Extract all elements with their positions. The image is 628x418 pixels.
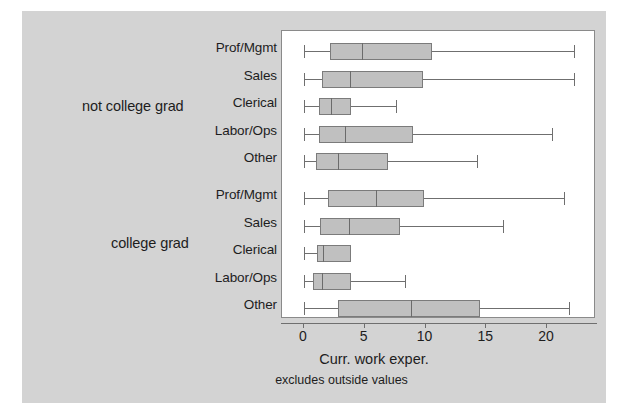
- whisker-low-cap: [304, 155, 305, 168]
- group-label-not-college-grad: not college grad: [82, 98, 184, 114]
- whisker-high-cap: [503, 220, 504, 233]
- whisker-low-cap: [304, 192, 305, 205]
- whisker-low-line: [304, 161, 316, 162]
- chart-figure: not college grad college grad Prof/MgmtS…: [22, 11, 606, 403]
- boxplot-box: [338, 300, 480, 317]
- whisker-high-cap: [552, 128, 553, 141]
- whisker-high-cap: [477, 155, 478, 168]
- whisker-high-line: [432, 51, 574, 52]
- whisker-high-cap: [574, 73, 575, 86]
- boxplot-box: [330, 43, 432, 60]
- boxplot-box: [320, 218, 400, 235]
- x-tick-label-15: 15: [477, 328, 493, 344]
- x-tick-label-5: 5: [360, 328, 368, 344]
- whisker-low-line: [304, 51, 330, 52]
- whisker-high-line: [351, 281, 404, 282]
- boxplot-median: [376, 190, 377, 207]
- boxplot-median: [322, 273, 323, 290]
- boxplot-box: [319, 98, 352, 115]
- whisker-high-cap: [574, 45, 575, 58]
- boxplot-box: [319, 126, 414, 143]
- whisker-low-cap: [304, 100, 305, 113]
- boxplot-row: [282, 149, 594, 175]
- whisker-high-line: [400, 226, 503, 227]
- category-label-labor-ops: Labor/Ops: [215, 270, 277, 285]
- boxplot-row: [282, 241, 594, 267]
- boxplot-row: [282, 296, 594, 322]
- category-label-clerical: Clerical: [233, 242, 277, 257]
- boxplot-median: [338, 153, 339, 170]
- boxplot-box: [313, 273, 352, 290]
- category-label-sales: Sales: [244, 68, 277, 83]
- boxplot-median: [349, 218, 350, 235]
- whisker-high-line: [480, 308, 569, 309]
- boxplot-row: [282, 269, 594, 295]
- whisker-low-line: [304, 281, 313, 282]
- x-axis-title: Curr. work exper.: [22, 351, 606, 367]
- whisker-high-line: [351, 106, 396, 107]
- whisker-high-cap: [405, 275, 406, 288]
- group-label-college-grad: college grad: [111, 235, 189, 251]
- boxplot-box: [322, 71, 423, 88]
- boxplot-median: [350, 71, 351, 88]
- x-tick-label-10: 10: [417, 328, 433, 344]
- x-axis-note: excludes outside values: [22, 373, 606, 387]
- boxplot-median: [411, 300, 412, 317]
- boxplot-median: [345, 126, 346, 143]
- boxplot-row: [282, 67, 594, 93]
- category-label-clerical: Clerical: [233, 95, 277, 110]
- whisker-low-line: [304, 79, 322, 80]
- whisker-low-cap: [304, 220, 305, 233]
- whisker-high-line: [423, 79, 574, 80]
- category-label-other: Other: [244, 297, 277, 312]
- whisker-high-cap: [569, 302, 570, 315]
- whisker-high-line: [424, 198, 564, 199]
- category-label-other: Other: [244, 150, 277, 165]
- whisker-low-line: [304, 308, 338, 309]
- boxplot-row: [282, 214, 594, 240]
- boxplot-median: [362, 43, 363, 60]
- whisker-low-cap: [304, 73, 305, 86]
- whisker-low-cap: [304, 275, 305, 288]
- boxplot-row: [282, 122, 594, 148]
- whisker-low-line: [304, 226, 320, 227]
- category-label-sales: Sales: [244, 215, 277, 230]
- whisker-high-line: [388, 161, 477, 162]
- whisker-low-cap: [304, 128, 305, 141]
- category-label-prof-mgmt: Prof/Mgmt: [216, 187, 277, 202]
- boxplot-box: [316, 153, 388, 170]
- whisker-low-line: [304, 106, 319, 107]
- whisker-low-line: [304, 253, 317, 254]
- whisker-high-cap: [564, 192, 565, 205]
- whisker-low-cap: [304, 247, 305, 260]
- category-label-prof-mgmt: Prof/Mgmt: [216, 40, 277, 55]
- boxplot-median: [323, 245, 324, 262]
- whisker-high-line: [413, 134, 552, 135]
- whisker-low-line: [304, 134, 319, 135]
- boxplot-row: [282, 186, 594, 212]
- x-tick-label-20: 20: [538, 328, 554, 344]
- plot-area: [281, 30, 595, 318]
- boxplot-median: [331, 98, 332, 115]
- x-axis-line: [281, 323, 597, 324]
- category-label-labor-ops: Labor/Ops: [215, 123, 277, 138]
- whisker-low-cap: [304, 302, 305, 315]
- whisker-low-line: [304, 198, 328, 199]
- whisker-high-cap: [396, 100, 397, 113]
- boxplot-row: [282, 94, 594, 120]
- x-tick-label-0: 0: [299, 328, 307, 344]
- boxplot-row: [282, 39, 594, 65]
- whisker-low-cap: [304, 45, 305, 58]
